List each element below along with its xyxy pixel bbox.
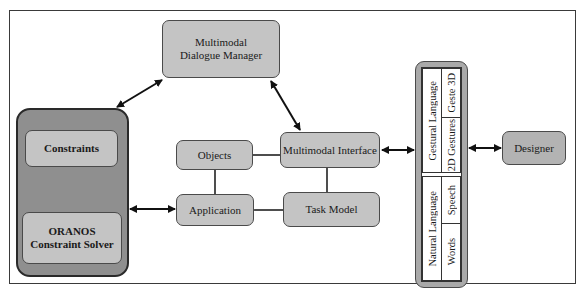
objects-label: Objects [198, 149, 232, 162]
speech-cell: Speech [441, 176, 461, 224]
multimodal-interface-box: Multimodal Interface [280, 132, 380, 168]
constraints-label: Constraints [44, 142, 99, 155]
2d-gestures-label: 2D Gestures [446, 119, 457, 171]
words-label: Words [446, 238, 457, 265]
designer-box: Designer [502, 131, 566, 165]
modalities-column: Gestural Language Geste 3D 2D Gestures N… [415, 61, 468, 288]
designer-label: Designer [514, 142, 554, 155]
gestural-language-label: Gestural Language [427, 81, 438, 161]
task-model-box: Task Model [283, 192, 380, 227]
2d-gestures-cell: 2D Gestures [441, 117, 461, 173]
geste-3d-label: Geste 3D [446, 73, 457, 112]
arrow-dm-interface [271, 81, 300, 130]
objects-box: Objects [176, 140, 253, 170]
oranos-solver-box: ORANOS Constraint Solver [22, 212, 122, 264]
solver-label-2: Constraint Solver [30, 238, 113, 251]
application-label: Application [189, 204, 241, 217]
application-box: Application [176, 194, 254, 226]
gestural-language-cell: Gestural Language [422, 68, 442, 173]
speech-label: Speech [446, 185, 457, 215]
solver-label-1: ORANOS [48, 225, 95, 238]
modalities-table: Gestural Language Geste 3D 2D Gestures N… [421, 67, 462, 282]
dialogue-manager-label-1: Multimodal [195, 36, 247, 49]
constraints-box: Constraints [25, 130, 118, 167]
arrow-dm-panel [117, 80, 162, 107]
multimodal-interface-label: Multimodal Interface [283, 144, 377, 157]
words-cell: Words [441, 223, 461, 281]
task-model-label: Task Model [305, 203, 357, 216]
natural-language-label: Natural Language [427, 191, 438, 267]
dialogue-manager-box: Multimodal Dialogue Manager [162, 20, 280, 78]
natural-language-cell: Natural Language [422, 176, 442, 281]
geste-3d-cell: Geste 3D [441, 68, 461, 118]
dialogue-manager-label-2: Dialogue Manager [180, 49, 262, 62]
